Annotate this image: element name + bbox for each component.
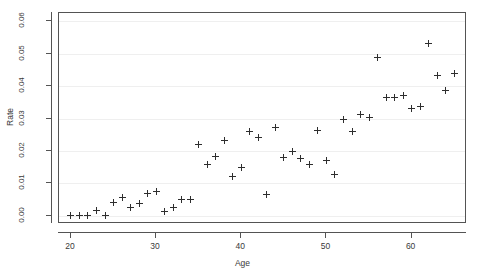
x-tick-label: 30 [150,241,159,251]
x-tick-label: 60 [406,241,415,251]
data-point [374,54,381,61]
data-point [400,92,407,99]
data-point [238,164,245,171]
y-tick-label: 0.03 [18,110,26,126]
data-point [178,196,185,203]
data-point [110,199,117,206]
data-point [127,204,134,211]
data-point [195,141,202,148]
x-tick-label: 20 [65,241,74,251]
gridline-y-4 [59,86,465,87]
data-point [161,208,168,215]
data-point [314,127,321,134]
data-point [280,154,287,161]
data-point [170,204,177,211]
x-axis-line [58,232,466,233]
data-point [331,171,338,178]
data-point [451,70,458,77]
x-tick-mark-1 [155,233,156,238]
data-point [349,128,356,135]
data-point [417,103,424,110]
x-axis-title: Age [0,258,485,268]
scatter-plot-figure: 0.000.010.020.030.040.050.06 2030405060 … [0,0,485,277]
data-point [408,105,415,112]
data-point [442,87,449,94]
y-tick-mark-3 [46,118,51,119]
data-point [434,72,441,79]
y-axis-title: Rate [5,108,15,126]
data-point [263,191,270,198]
data-point [229,173,236,180]
y-tick-label: 0.02 [18,142,26,158]
data-point [153,188,160,195]
data-point [187,196,194,203]
x-tick-mark-3 [325,233,326,238]
data-point [204,161,211,168]
data-point [297,155,304,162]
data-point [357,111,364,118]
y-tick-label: 0.04 [18,77,26,93]
data-point [136,200,143,207]
y-tick-mark-1 [46,182,51,183]
x-tick-label: 50 [321,241,330,251]
data-point [119,194,126,201]
data-point [366,114,373,121]
y-tick-mark-6 [46,20,51,21]
data-point [425,40,432,47]
data-point [272,124,279,131]
data-point [391,94,398,101]
y-tick-mark-4 [46,85,51,86]
gridline-y-6 [59,21,465,22]
gridline-y-2 [59,151,465,152]
x-tick-mark-2 [240,233,241,238]
data-point [306,161,313,168]
gridline-y-0 [59,216,465,217]
y-axis-line [51,12,52,223]
data-point [246,128,253,135]
plot-panel [58,12,466,223]
y-tick-label: 0.00 [18,207,26,223]
data-point [212,153,219,160]
y-tick-mark-2 [46,150,51,151]
y-tick-label: 0.05 [18,45,26,61]
y-tick-label: 0.01 [18,175,26,191]
data-point [255,134,262,141]
gridline-y-5 [59,54,465,55]
x-tick-mark-0 [70,233,71,238]
x-tick-label: 40 [236,241,245,251]
data-point [93,207,100,214]
x-tick-mark-4 [411,233,412,238]
gridline-y-3 [59,119,465,120]
gridline-y-1 [59,183,465,184]
y-tick-label: 0.06 [18,12,26,28]
data-point [221,137,228,144]
y-tick-mark-5 [46,53,51,54]
data-point [323,157,330,164]
y-tick-mark-0 [46,215,51,216]
data-point [144,190,151,197]
data-point [383,94,390,101]
